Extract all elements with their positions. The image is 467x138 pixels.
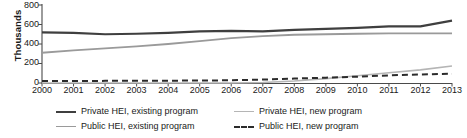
legend-label: Private HEI, new program [259,106,362,116]
x-tick-label: 2013 [435,85,467,95]
x-tick-label: 2011 [372,85,406,95]
legend-item-private-hei-new-program[interactable]: Private HEI, new program [234,104,434,117]
x-tick-label: 2006 [214,85,248,95]
data-series-group [42,21,452,83]
legend-row: Public HEI, existing program Public HEI,… [56,119,456,132]
legend-label: Private HEI, existing program [81,106,198,116]
legend-swatch-icon [56,122,76,129]
series-line [42,33,452,52]
x-tick-label: 2001 [57,85,91,95]
x-tick-label: 2000 [25,85,59,95]
legend-row: Private HEI, existing program Private HE… [56,104,456,117]
x-axis-tick-labels: 2000200120022003200420052006200720082009… [42,85,454,99]
x-tick-label: 2009 [309,85,343,95]
legend-label: Public HEI, existing program [81,121,195,131]
x-tick-label: 2010 [340,85,374,95]
x-tick-label: 2005 [183,85,217,95]
x-tick-label: 2004 [151,85,185,95]
series-line [42,74,452,81]
chart-legend: Private HEI, existing program Private HE… [56,104,456,134]
x-tick-label: 2008 [277,85,311,95]
x-tick-label: 2003 [120,85,154,95]
legend-item-public-hei-new-program[interactable]: Public HEI, new program [234,119,434,132]
series-line [42,21,452,35]
x-tick-label: 2002 [88,85,122,95]
legend-swatch-icon [56,107,76,114]
x-tick-label: 2012 [403,85,437,95]
legend-swatch-icon [234,122,254,129]
legend-label: Public HEI, new program [259,121,359,131]
y-tick-marks [38,5,42,83]
axis-lines [42,4,452,84]
legend-swatch-icon [234,107,254,114]
legend-item-public-hei-existing-program[interactable]: Public HEI, existing program [56,119,234,132]
legend-item-private-hei-existing-program[interactable]: Private HEI, existing program [56,104,234,117]
x-tick-label: 2007 [246,85,280,95]
